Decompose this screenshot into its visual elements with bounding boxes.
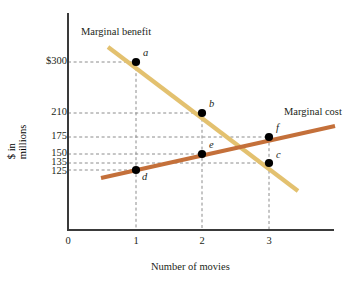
data-point-d (132, 166, 140, 174)
point-label-d: d (142, 172, 147, 183)
y-axis-title-wrapper: $ in millions (10, 92, 24, 192)
y-tick-label-210: 210 (51, 107, 67, 118)
point-label-b: b (209, 99, 214, 110)
chart-plot-area (0, 0, 363, 289)
data-point-a (132, 58, 140, 66)
y-tick-label-175: 175 (51, 131, 67, 142)
series-label-marginal-cost: Marginal cost (284, 107, 342, 118)
data-point-f (265, 133, 273, 141)
data-point-b (198, 109, 206, 117)
y-tick-label-125: 125 (51, 166, 67, 177)
x-axis-title: Number of movies (151, 262, 230, 273)
point-label-a: a (143, 48, 148, 59)
y-axis-title: $ in millions (6, 125, 28, 159)
point-label-f: f (276, 123, 279, 134)
point-label-e: e (209, 140, 214, 151)
x-tick-label-2: 2 (193, 236, 211, 247)
chart-figure: $300 210 175 150 135 125 0 1 2 3 Number … (0, 0, 363, 289)
axis-lines (67, 13, 334, 231)
x-tick-label-3: 3 (260, 236, 278, 247)
guide-lines-horizontal (68, 62, 269, 170)
x-tick-label-0: 0 (59, 236, 77, 247)
x-tick-label-1: 1 (127, 236, 145, 247)
data-point-e (198, 150, 206, 158)
series-label-marginal-benefit: Marginal benefit (81, 27, 151, 38)
y-tick-label-300: $300 (46, 56, 67, 67)
data-point-c (265, 159, 273, 167)
point-label-c: c (276, 150, 281, 161)
